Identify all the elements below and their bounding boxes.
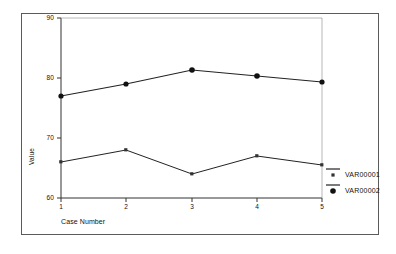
square-marker-icon [325,166,341,182]
x-tick-label-1: 1 [54,203,68,210]
x-tick-label-2: 2 [119,203,133,210]
legend-label-var00002: VAR00002 [345,187,380,194]
x-tick-label-5: 5 [315,203,329,210]
y-axis-title: Value [28,148,35,165]
chart-figure: 90 80 70 60 1 2 3 4 5 Value Case Number … [0,0,396,254]
circle-marker-icon [325,182,341,198]
x-axis-title: Case Number [61,218,105,225]
legend-item-var00002[interactable]: VAR00002 [325,182,391,198]
legend-label-var00001: VAR00001 [345,171,380,178]
chart-legend: VAR00001 VAR00002 [325,166,391,198]
legend-item-var00001[interactable]: VAR00001 [325,166,391,182]
y-tick-label-90: 90 [38,14,54,21]
series-var00002 [58,67,324,98]
x-tick-label-4: 4 [250,203,264,210]
y-tick-label-80: 80 [38,74,54,81]
y-axis-ticks [57,18,61,198]
series-var00001 [59,148,323,175]
y-tick-label-70: 70 [38,134,54,141]
y-tick-label-60: 60 [38,194,54,201]
plot-frame [61,18,322,198]
x-tick-label-3: 3 [185,203,199,210]
plot-area [0,0,396,254]
x-axis-ticks [61,198,322,202]
